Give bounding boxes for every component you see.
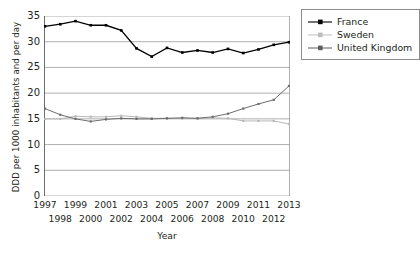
y-tick-25: 25 [27, 62, 40, 72]
data-point [135, 47, 138, 50]
x-tick-2008: 2008 [201, 214, 224, 224]
data-point [44, 118, 46, 120]
x-tick-2006: 2006 [171, 214, 194, 224]
y-axis-tick-labels: 05101520253035 [14, 16, 40, 196]
data-point [227, 48, 230, 51]
x-tick-2007: 2007 [186, 200, 209, 210]
data-point [196, 117, 198, 119]
x-tick-2001: 2001 [94, 200, 117, 210]
data-point [211, 51, 214, 54]
data-point [44, 25, 46, 28]
legend-item-united-kingdom[interactable]: United Kingdom [307, 41, 412, 54]
data-point [151, 118, 153, 120]
y-tick-15: 15 [27, 114, 40, 124]
data-point [120, 117, 122, 119]
data-point [212, 116, 214, 118]
data-point [59, 114, 61, 116]
data-point [90, 116, 92, 118]
data-point [59, 23, 62, 26]
y-tick-10: 10 [27, 140, 40, 150]
data-point [90, 120, 92, 122]
data-point [288, 41, 290, 44]
data-point [288, 123, 290, 125]
legend-key-france [307, 17, 333, 27]
data-point [181, 51, 184, 54]
data-point [74, 20, 77, 23]
x-tick-2005: 2005 [155, 200, 178, 210]
series-france [44, 20, 290, 58]
x-tick-2003: 2003 [125, 200, 148, 210]
data-point [288, 85, 290, 87]
plot-area [44, 16, 290, 196]
x-tick-1997: 1997 [33, 200, 56, 210]
data-point [272, 44, 275, 47]
data-point [135, 116, 137, 118]
x-tick-2009: 2009 [216, 200, 239, 210]
legend-label-france: France [337, 16, 368, 27]
data-point [257, 103, 259, 105]
x-tick-2011: 2011 [247, 200, 270, 210]
data-point [74, 115, 76, 117]
legend-item-france[interactable]: France [307, 15, 412, 28]
data-point [105, 24, 108, 27]
x-tick-2010: 2010 [232, 214, 255, 224]
data-point [257, 48, 260, 51]
legend-label-united-kingdom: United Kingdom [337, 42, 412, 53]
x-tick-2012: 2012 [262, 214, 285, 224]
data-point [196, 49, 199, 52]
data-point [273, 99, 275, 101]
data-point [273, 120, 275, 122]
x-tick-2004: 2004 [140, 214, 163, 224]
y-tick-20: 20 [27, 88, 40, 98]
data-point [242, 120, 244, 122]
data-point [74, 118, 76, 120]
data-point [257, 120, 259, 122]
chart-canvas [44, 16, 290, 196]
data-point [227, 117, 229, 119]
x-tick-1998: 1998 [49, 214, 72, 224]
chart-legend: France Sweden United Kingdom [301, 9, 420, 60]
data-point [227, 113, 229, 115]
data-point [135, 118, 137, 120]
data-point [105, 116, 107, 118]
legend-label-sweden: Sweden [337, 29, 374, 40]
legend-key-sweden [307, 30, 333, 40]
x-tick-2013: 2013 [277, 200, 300, 210]
x-tick-1999: 1999 [64, 200, 87, 210]
data-point [120, 115, 122, 117]
data-point [150, 55, 153, 58]
data-point [166, 117, 168, 119]
data-point [44, 107, 46, 109]
data-point [89, 24, 92, 27]
y-tick-5: 5 [34, 165, 40, 175]
data-point [242, 107, 244, 109]
x-tick-2002: 2002 [110, 214, 133, 224]
legend-item-sweden[interactable]: Sweden [307, 28, 412, 41]
data-point [181, 117, 183, 119]
data-point [59, 118, 61, 120]
x-axis-title: Year [44, 230, 290, 241]
series-line [45, 21, 289, 56]
data-point [166, 47, 169, 50]
x-tick-2000: 2000 [79, 214, 102, 224]
y-tick-30: 30 [27, 37, 40, 47]
data-point [242, 52, 245, 55]
legend-key-united-kingdom [307, 43, 333, 53]
data-point [105, 118, 107, 120]
data-point [120, 29, 123, 32]
y-tick-35: 35 [27, 11, 40, 21]
